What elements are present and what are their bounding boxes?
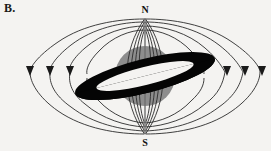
field-diagram-svg: N S	[0, 0, 271, 151]
magnetic-field-figure: B.	[0, 0, 271, 151]
south-pole-label: S	[142, 137, 148, 148]
arrowhead-left-2	[46, 66, 54, 76]
arrowhead-right-3	[258, 66, 266, 76]
arrowhead-left-1	[26, 66, 34, 76]
arrowhead-left-3	[66, 66, 74, 76]
north-pole-label: N	[141, 4, 149, 15]
